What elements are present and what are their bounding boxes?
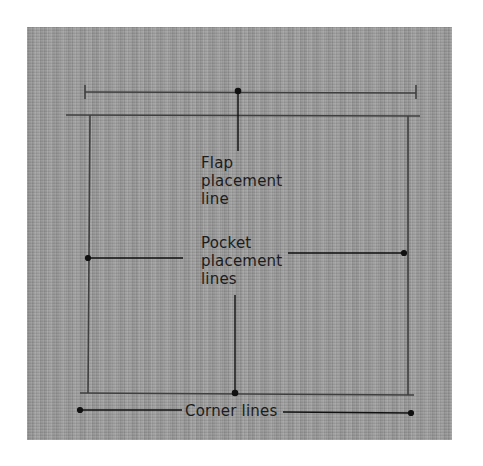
pocket-leader-down-dot — [232, 390, 237, 395]
pocket-placement-label: Pocket placement lines — [201, 234, 282, 288]
annotation-lines — [0, 0, 483, 466]
corner-lines-label: Corner lines — [185, 402, 278, 420]
pocket-leader-right-dot — [402, 251, 407, 256]
top-seam-line — [66, 115, 420, 116]
flap-placement-line — [85, 92, 416, 93]
left-seam-line — [88, 115, 90, 393]
corner-leader-right-dot — [409, 411, 414, 416]
bottom-seam-line — [80, 393, 414, 395]
corner-leader-right — [283, 412, 411, 413]
flap-leader-dot — [235, 88, 240, 93]
pocket-leader-left-dot — [86, 256, 91, 261]
corner-leader-left-dot — [78, 408, 83, 413]
flap-placement-label: Flap placement line — [201, 154, 282, 208]
